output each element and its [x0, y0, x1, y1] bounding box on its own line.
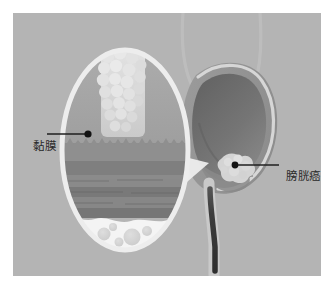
label-bladder-cancer: 膀胱癌 [286, 170, 321, 183]
tumor-lobule [239, 171, 247, 179]
papilla [109, 73, 121, 85]
papilla [110, 60, 122, 72]
fat-cell [109, 223, 117, 231]
papilla [99, 86, 111, 98]
fat-cell [142, 226, 152, 236]
papilla [136, 60, 147, 71]
papilla [113, 97, 125, 109]
papilla [124, 100, 136, 112]
papilla [123, 88, 135, 100]
fat-cell [115, 238, 124, 247]
papilla [98, 62, 110, 74]
figure-root: 黏膜 膀胱癌 [0, 0, 333, 292]
tumor-lobule [224, 158, 232, 166]
papilla [104, 109, 115, 120]
papilla [101, 98, 113, 110]
papilla [127, 112, 138, 123]
leader-dot-mucosa [84, 130, 91, 137]
submucosa-layer [58, 161, 198, 175]
urethra-group [209, 183, 215, 275]
bladder-illustration-svg [13, 13, 321, 276]
illustration-panel: 黏膜 膀胱癌 [13, 13, 321, 276]
papilla [97, 74, 109, 86]
papillary-tumor-group [97, 47, 147, 138]
leader-dot-bladder-cancer [232, 162, 239, 169]
papilla [121, 76, 134, 89]
papilla [115, 108, 127, 120]
tumor-lobule [220, 166, 227, 173]
tumor-lobule [241, 161, 251, 171]
papilla [110, 121, 121, 132]
papilla [133, 83, 144, 94]
fat-cell [124, 229, 141, 246]
label-mucosa: 黏膜 [33, 140, 56, 153]
papilla [111, 85, 123, 97]
papilla [121, 122, 131, 132]
papilla [134, 71, 146, 83]
papilla [123, 64, 136, 77]
